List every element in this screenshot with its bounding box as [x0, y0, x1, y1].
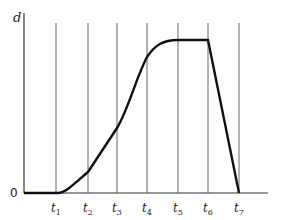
tick-label-t4: t4 [142, 201, 152, 217]
origin-label: 0 [10, 186, 18, 200]
tick-label-t2: t2 [83, 201, 93, 217]
tick-label-t3: t3 [112, 201, 122, 217]
y-axis-label: d [13, 10, 21, 25]
vertical-gridlines [56, 23, 239, 193]
x-tick-labels: t1t2t3t4t5t6t7 [51, 201, 244, 217]
tick-label-t5: t5 [173, 201, 183, 217]
tick-label-t7: t7 [234, 201, 244, 217]
tick-label-t1: t1 [51, 201, 61, 217]
distance-time-chart: d 0 t1t2t3t4t5t6t7 [0, 0, 282, 220]
tick-label-t6: t6 [203, 201, 213, 217]
